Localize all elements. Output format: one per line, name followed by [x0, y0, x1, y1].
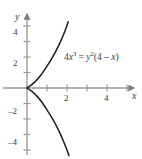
curve-lower-branch [27, 88, 69, 156]
curve-upper-branch [27, 22, 68, 88]
equation-annotation: 4x3 = y2(4 – x) [64, 53, 119, 63]
y-tick-label-4: 4 [13, 28, 18, 37]
x-axis-label: x [132, 91, 136, 101]
equation-rhs-const: 4 [97, 52, 102, 62]
equation-lhs-exponent: 3 [73, 50, 76, 57]
y-tick-label-neg2: –2 [8, 107, 17, 116]
equation-rhs-minus: – [104, 52, 109, 62]
graph-figure: y x 4 2 –2 –4 2 4 4x3 = y2(4 – x) [0, 0, 142, 159]
y-tick-label-neg4: –4 [8, 138, 17, 147]
plot-canvas [0, 0, 142, 159]
x-tick-label-4: 4 [104, 94, 109, 103]
equation-equals: = [79, 52, 84, 62]
y-tick-label-2: 2 [13, 59, 18, 68]
x-tick-label-2: 2 [64, 94, 69, 103]
y-axis-label: y [15, 12, 19, 22]
equation-rhs-close-paren: ) [115, 52, 118, 62]
